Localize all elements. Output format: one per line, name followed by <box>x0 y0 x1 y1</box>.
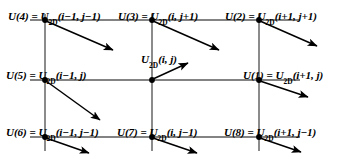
node-global-args-u1: (i+1, j) <box>293 69 323 81</box>
node-label-u5: U(5) = U2D(i−1, j) <box>6 70 86 84</box>
node-dot-center <box>149 77 155 83</box>
node-global-args-u5: (i−1, j) <box>56 69 87 81</box>
node-label-u7: U(7) = U2D(i, j−1) <box>117 127 197 141</box>
equals-sign-u5: = <box>29 69 35 81</box>
node-global-args-u3: (i, j+1) <box>168 10 198 22</box>
node-local-index-u1: U(1) <box>243 69 264 81</box>
equals-sign-u2: = <box>248 10 254 22</box>
node-local-index-u6: U(6) <box>6 126 27 138</box>
node-global-args-u6: (i−1, j−1) <box>56 126 99 138</box>
node-label-u1: U(1) = U2D(i+1, j) <box>243 70 323 84</box>
node-label-u4: U(4) = U2D(i−1, j−1) <box>8 11 101 25</box>
node-local-index-u4: U(4) <box>8 10 29 22</box>
node-local-index-u7: U(7) <box>117 126 138 138</box>
node-local-index-u2: U(2) <box>225 10 246 22</box>
node-local-index-u8: U(8) <box>224 126 245 138</box>
equals-sign-u1: = <box>266 69 272 81</box>
node-local-index-u3: U(3) <box>118 10 139 22</box>
node-global-subscript-u3: 2D <box>158 18 167 27</box>
node-global-args-u8: (i+1, j−1) <box>274 126 317 138</box>
equals-sign-u8: = <box>247 126 253 138</box>
stencil-figure: U(4) = U2D(i−1, j−1) U(3) = U2D(i, j+1) … <box>0 0 352 167</box>
equals-sign-u4: = <box>31 10 37 22</box>
equals-sign-u3: = <box>141 10 147 22</box>
node-global-subscript-u8: 2D <box>264 134 273 143</box>
node-label-u2: U(2) = U2D(i+1, j+1) <box>225 11 317 25</box>
node-global-subscript-center: 2D <box>149 61 158 70</box>
node-global-subscript-u7: 2D <box>157 134 166 143</box>
node-label-center: U2D(i, j) <box>141 54 177 68</box>
node-local-index-u5: U(5) <box>6 69 27 81</box>
node-label-u6: U(6) = U2D(i−1, j−1) <box>6 127 99 141</box>
node-global-subscript-u5: 2D <box>46 77 55 86</box>
node-label-u8: U(8) = U2D(i+1, j−1) <box>224 127 316 141</box>
arrow-from-u5 <box>46 81 100 120</box>
node-global-args-u2: (i+1, j+1) <box>275 10 317 22</box>
node-global-args-u4: (i−1, j−1) <box>58 10 101 22</box>
equals-sign-u7: = <box>140 126 146 138</box>
node-global-subscript-u4: 2D <box>48 18 57 27</box>
node-global-base-center: U <box>141 53 149 65</box>
node-global-subscript-u2: 2D <box>265 18 274 27</box>
equals-sign-u6: = <box>29 126 35 138</box>
node-global-args-u7: (i, j−1) <box>167 126 198 138</box>
node-global-args-center: (i, j) <box>158 53 177 65</box>
node-global-subscript-u6: 2D <box>46 134 55 143</box>
node-global-subscript-u1: 2D <box>283 77 292 86</box>
node-label-u3: U(3) = U2D(i, j+1) <box>118 11 198 25</box>
